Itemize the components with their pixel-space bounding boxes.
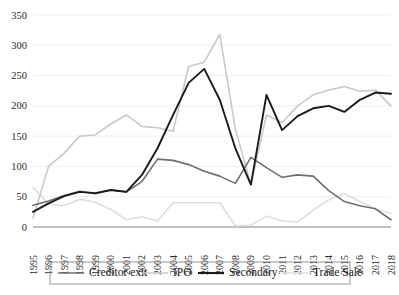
x-tick-label-1998: 1998 [74,255,85,275]
y-tick-label-50: 50 [17,191,28,202]
y-tick-label-0: 0 [22,222,27,233]
chart-background [0,0,399,295]
y-tick-label-150: 150 [11,131,27,142]
line-chart: 050100150200250300350 199519961997199819… [0,0,399,295]
x-tick-label-2017: 2017 [370,255,381,275]
y-tick-label-250: 250 [11,70,27,81]
x-tick-label-2003: 2003 [152,255,163,275]
legend-label-ipo: IPO [173,266,192,278]
x-tick-label-1996: 1996 [43,255,54,275]
legend-label-secondary: Secondary [229,266,278,279]
x-tick-label-2011: 2011 [277,255,288,275]
y-tick-label-300: 300 [11,40,27,51]
chart-canvas: 050100150200250300350 199519961997199819… [0,0,399,295]
x-tick-label-2012: 2012 [292,255,303,275]
y-tick-label-200: 200 [11,100,27,111]
x-tick-label-2018: 2018 [386,255,397,275]
legend-label-creditor-exit: Creditor exit [89,266,148,278]
y-tick-label-100: 100 [11,161,27,172]
legend-label-trade-sale: Trade Sale [313,266,362,278]
x-tick-label-1997: 1997 [59,255,70,275]
y-tick-label-350: 350 [11,10,27,21]
x-tick-label-1995: 1995 [28,255,39,275]
